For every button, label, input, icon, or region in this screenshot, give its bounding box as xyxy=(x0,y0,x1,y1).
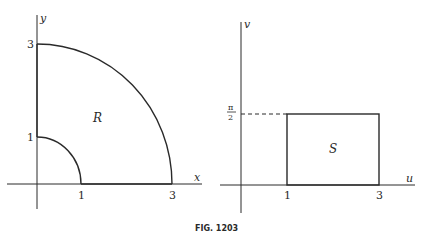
y-axis-label: y xyxy=(39,12,47,25)
figure-1203: y x 3 1 1 3 R v u π 2 1 3 S FIG. 1203 xyxy=(0,0,427,236)
right-panel xyxy=(220,22,415,213)
v-tick-pi-numerator: π xyxy=(228,103,233,112)
u-tick-1: 1 xyxy=(284,189,291,202)
region-r-label: R xyxy=(92,111,102,125)
region-s-label: S xyxy=(329,142,337,156)
outer-arc xyxy=(37,44,172,184)
u-axis-label: u xyxy=(406,172,413,185)
v-tick-denominator: 2 xyxy=(228,113,233,122)
v-axis-label: v xyxy=(244,18,251,31)
inner-arc xyxy=(37,137,81,184)
figure-caption: FIG. 1203 xyxy=(195,224,238,233)
u-tick-3: 3 xyxy=(376,189,383,202)
left-panel xyxy=(7,15,202,209)
x-axis-label: x xyxy=(194,171,201,184)
y-tick-1: 1 xyxy=(27,131,34,144)
x-tick-3: 3 xyxy=(169,189,176,202)
y-tick-3: 3 xyxy=(27,38,34,51)
x-tick-1: 1 xyxy=(78,189,85,202)
